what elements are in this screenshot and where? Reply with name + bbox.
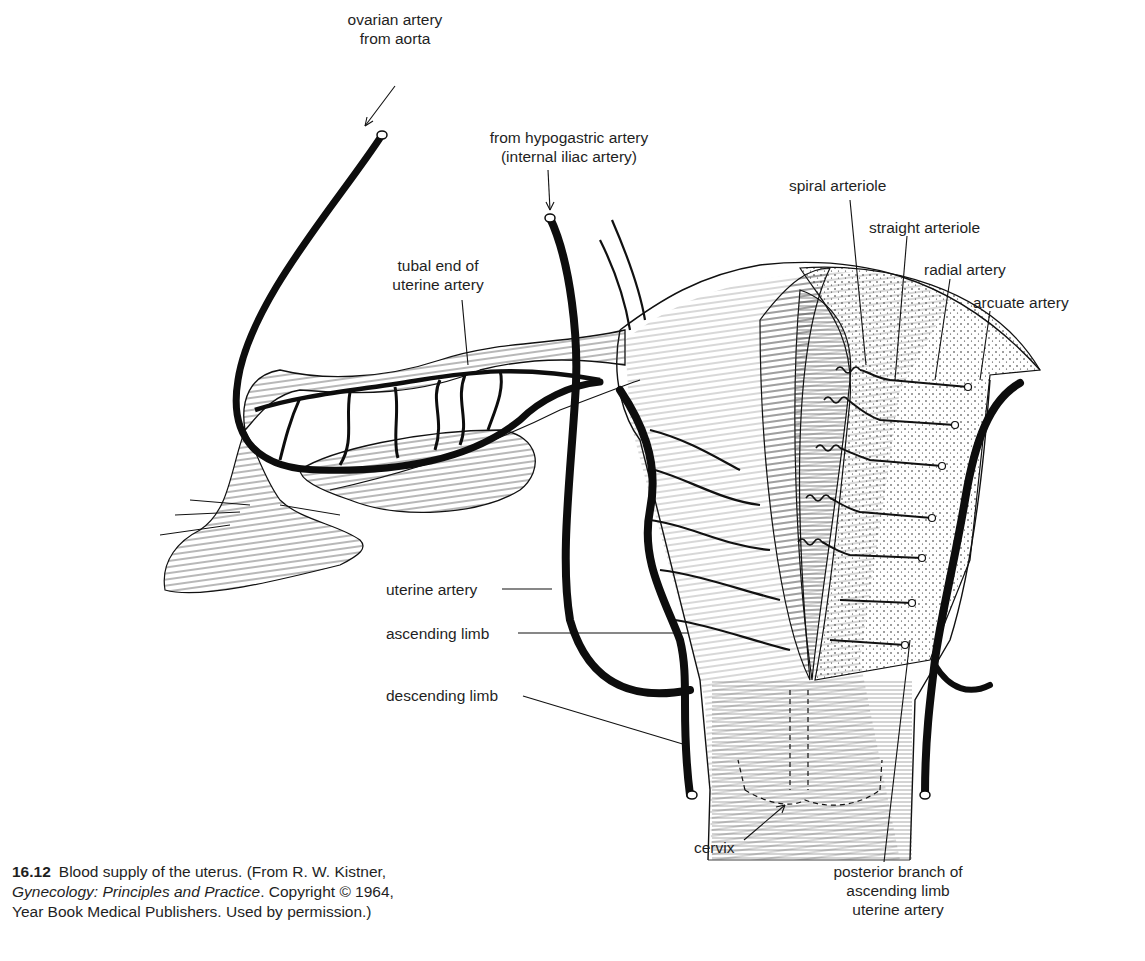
- cervix-region: [712, 680, 912, 860]
- label-posterior-branch: posterior branch of ascending limb uteri…: [818, 862, 978, 919]
- label-tubal-end-line1: tubal end of: [378, 256, 498, 275]
- label-descending-limb: descending limb: [386, 686, 498, 705]
- label-tubal-end: tubal end of uterine artery: [378, 256, 498, 294]
- label-ovarian-artery-line1: ovarian artery: [330, 10, 460, 29]
- label-tubal-end-line2: uterine artery: [378, 275, 498, 294]
- label-uterine-artery: uterine artery: [386, 580, 477, 599]
- label-hypogastric-line1: from hypogastric artery: [474, 128, 664, 147]
- label-hypogastric-line2: (internal iliac artery): [474, 147, 664, 166]
- label-ascending-limb: ascending limb: [386, 624, 489, 643]
- label-ovarian-artery-line2: from aorta: [330, 29, 460, 48]
- label-posterior-branch-line2: ascending limb: [818, 881, 978, 900]
- figure-number: 16.12: [12, 863, 51, 880]
- caption-book-title: Gynecology: Principles and Practice: [12, 883, 260, 900]
- label-spiral-arteriole: spiral arteriole: [789, 176, 886, 195]
- label-straight-arteriole: straight arteriole: [869, 218, 980, 237]
- label-arcuate-artery: arcuate artery: [973, 293, 1069, 312]
- label-radial-artery: radial artery: [924, 260, 1006, 279]
- label-cervix: cervix: [694, 838, 734, 857]
- caption-text: Blood supply of the uterus. (From R. W. …: [59, 863, 386, 880]
- label-hypogastric-artery: from hypogastric artery (internal iliac …: [474, 128, 664, 166]
- label-ovarian-artery: ovarian artery from aorta: [330, 10, 460, 48]
- caption-copyright: . Copyright © 1964,: [260, 883, 394, 900]
- figure-caption: 16.12Blood supply of the uterus. (From R…: [12, 862, 412, 922]
- caption-publisher: Year Book Medical Publishers. Used by pe…: [12, 903, 372, 920]
- label-posterior-branch-line1: posterior branch of: [818, 862, 978, 881]
- label-posterior-branch-line3: uterine artery: [818, 900, 978, 919]
